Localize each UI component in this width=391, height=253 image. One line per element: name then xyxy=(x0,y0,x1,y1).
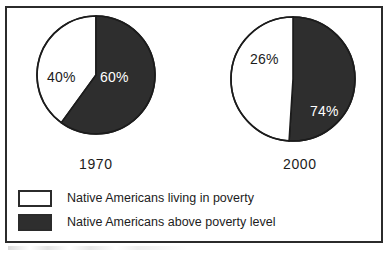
pie-2000-year: 2000 xyxy=(283,157,317,171)
pie-chart-2000 xyxy=(229,15,357,143)
pie-2000-label-dark: 74% xyxy=(310,104,339,118)
pie-1970-year: 1970 xyxy=(79,157,113,171)
figure-frame: 40% 60% 1970 26% 74% 2000 Native America… xyxy=(5,6,383,243)
pie-2000-label-light: 26% xyxy=(250,52,279,66)
legend-label-poverty: Native Americans living in poverty xyxy=(67,192,254,206)
pie-2000-slice-light xyxy=(231,17,293,141)
legend-swatch-white xyxy=(18,190,52,207)
pie-1970-label-light: 40% xyxy=(47,70,76,84)
legend-label-above-poverty: Native Americans above poverty level xyxy=(67,216,275,230)
scan-artifact xyxy=(8,246,188,250)
legend-item-poverty: Native Americans living in poverty xyxy=(18,190,318,207)
legend-item-above-poverty: Native Americans above poverty level xyxy=(18,214,318,231)
pie-2000-svg xyxy=(229,15,357,143)
pie-1970-label-dark: 60% xyxy=(100,70,129,84)
legend-swatch-dark xyxy=(18,214,52,231)
chart-figure: 40% 60% 1970 26% 74% 2000 Native America… xyxy=(0,0,391,253)
pie-2000-slice-dark xyxy=(289,17,355,141)
